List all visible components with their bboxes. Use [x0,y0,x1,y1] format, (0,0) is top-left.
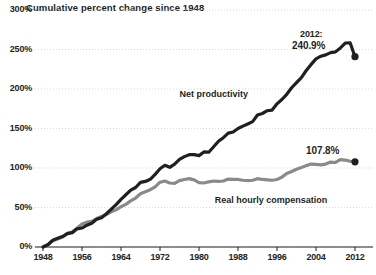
endpoint-value-net-productivity: 240.9% [292,40,325,51]
x-axis-tick-label: 1972 [140,252,180,262]
endpoint-year-label: 2012: [300,29,323,39]
endpoint-marker-real-hourly-compensation [351,158,358,165]
x-axis-tick-label: 1996 [257,252,297,262]
x-axis-tick-label: 2012 [335,252,375,262]
x-axis-tick-label: 1948 [23,252,63,262]
series-label-net-productivity: Net productivity [180,89,249,99]
y-axis-tick-label: 200% [0,83,32,93]
x-axis-tick-label: 1988 [218,252,258,262]
x-axis-tick-label: 1980 [179,252,219,262]
series-label-real-hourly-compensation: Real hourly compensation [215,195,328,205]
y-axis-tick-label: 100% [0,162,32,172]
x-axis-tick-label: 2004 [296,252,336,262]
x-axis-tick-label: 1964 [101,252,141,262]
x-axis-tick-label: 1956 [62,252,102,262]
y-axis-tick-label: 250% [0,44,32,54]
y-axis-tick-label: 150% [0,123,32,133]
endpoint-marker-net-productivity [351,53,358,60]
chart-container: Cumulative percent change since 1948 300… [0,0,376,275]
endpoint-value-real-hourly-compensation: 107.8% [306,145,339,156]
y-axis-tick-label: 0% [0,241,32,251]
y-axis-tick-label: 300% [0,4,32,14]
y-axis-tick-label: 50% [0,202,32,212]
